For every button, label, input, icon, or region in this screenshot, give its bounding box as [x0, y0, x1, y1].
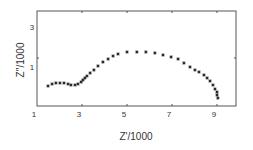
data-point-marker — [215, 90, 218, 93]
x-axis-ticks — [82, 11, 217, 106]
data-point-marker — [54, 81, 57, 84]
data-point-marker — [66, 82, 69, 85]
plot-frame — [37, 11, 236, 106]
data-point-marker — [76, 82, 79, 85]
data-point-marker — [202, 73, 205, 76]
x-tick-label: 9 — [212, 110, 217, 119]
data-point-marker — [206, 76, 209, 79]
nyquist-plot: 13579 31 Z'/1000 Z''/1000 — [0, 0, 253, 150]
data-point-marker — [85, 74, 88, 77]
data-point-marker — [69, 83, 72, 86]
x-tick-label: 3 — [77, 110, 82, 119]
data-point-marker — [197, 70, 200, 73]
data-point-marker — [153, 51, 156, 54]
data-point-marker — [58, 81, 61, 84]
y-axis-tick-labels: 31 — [30, 23, 35, 72]
data-point-marker — [208, 79, 211, 82]
data-point-marker — [111, 54, 114, 57]
data-point-marker — [96, 64, 99, 67]
data-point-marker — [107, 57, 110, 60]
data-point-marker — [50, 82, 53, 85]
x-axis-tick-labels: 13579 — [32, 110, 217, 119]
data-point-marker — [125, 50, 128, 53]
data-series-impedance — [46, 50, 219, 99]
data-point-marker — [188, 65, 191, 68]
data-point-marker — [161, 53, 164, 56]
x-axis-label: Z'/1000 — [119, 131, 152, 142]
data-point-marker — [193, 68, 196, 71]
data-point-marker — [116, 52, 119, 55]
data-point-marker — [89, 71, 92, 74]
data-point-marker — [216, 96, 219, 99]
x-tick-label: 7 — [167, 110, 172, 119]
data-point-marker — [73, 83, 76, 86]
data-point-marker — [46, 84, 49, 87]
data-point-marker — [215, 93, 218, 96]
data-point-marker — [62, 81, 65, 84]
data-point-marker — [92, 68, 95, 71]
data-point-marker — [170, 55, 173, 58]
data-point-marker — [176, 57, 179, 60]
x-tick-label: 1 — [32, 110, 37, 119]
data-point-marker — [213, 87, 216, 90]
x-tick-label: 5 — [122, 110, 127, 119]
data-point-marker — [144, 50, 147, 53]
data-point-marker — [101, 60, 104, 63]
data-point-marker — [182, 61, 185, 64]
y-tick-label: 3 — [30, 23, 35, 32]
data-point-marker — [211, 83, 214, 86]
y-axis-label: Z''/1000 — [15, 42, 26, 77]
y-tick-label: 1 — [30, 63, 35, 72]
data-point-marker — [135, 50, 138, 53]
